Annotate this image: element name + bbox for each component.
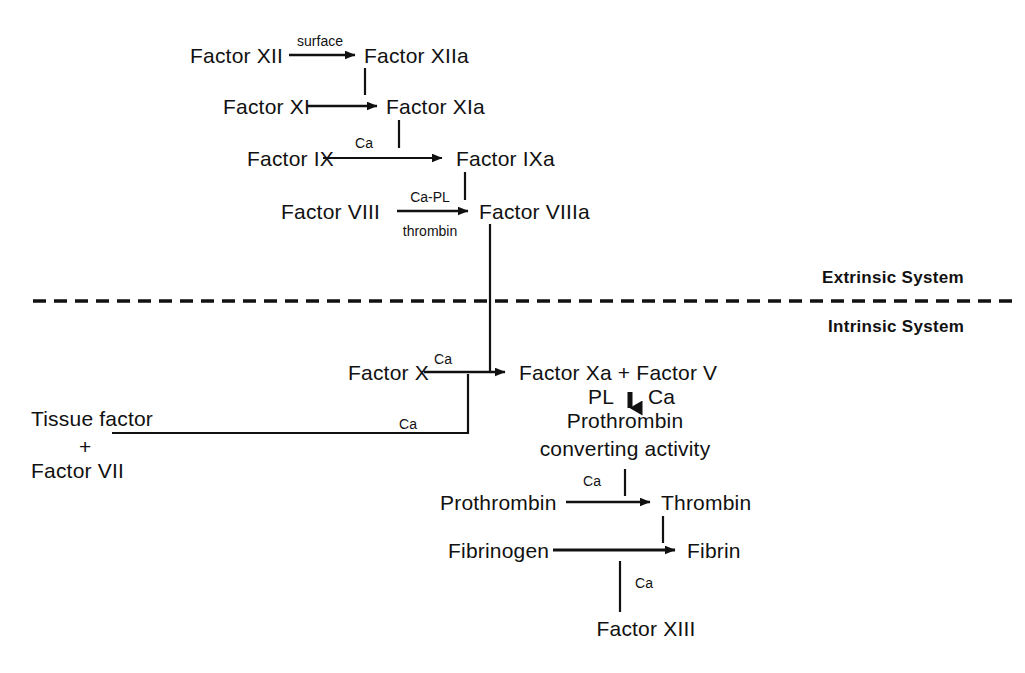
node-fibrin: Fibrin: [687, 540, 741, 561]
cofactor-pl: PL: [588, 386, 614, 407]
cofactor-ca-complex: Ca: [648, 386, 675, 407]
node-factor-x: Factor X: [348, 362, 429, 383]
coagulation-cascade-diagram: Factor XII Factor XIIa Factor XI Factor …: [0, 0, 1025, 673]
label-intrinsic-system: Intrinsic System: [828, 318, 964, 335]
node-factor-xi: Factor XI: [223, 96, 310, 117]
node-factor-viiia: Factor VIIIa: [479, 201, 590, 222]
node-prothrombin: Prothrombin: [440, 492, 557, 513]
node-tissue-factor: Tissue factor: [31, 408, 153, 429]
node-prothrombin-converting-line1: Prothrombin: [567, 410, 684, 431]
cofactor-ca-ix: Ca: [355, 136, 373, 150]
node-factor-xa-plus-factor-v: Factor Xa + Factor V: [519, 362, 717, 383]
cofactor-surface: surface: [297, 34, 343, 48]
label-extrinsic-system: Extrinsic System: [822, 269, 964, 286]
node-tissue-factor-plus: +: [79, 436, 91, 457]
diagram-connectors: [0, 0, 1025, 673]
node-factor-xiii: Factor XIII: [596, 618, 695, 639]
node-factor-xii: Factor XII: [190, 45, 283, 66]
node-factor-xiia: Factor XIIa: [364, 45, 469, 66]
cofactor-ca-pl: Ca-PL: [410, 190, 450, 204]
node-prothrombin-converting-line2: converting activity: [540, 438, 711, 459]
cofactor-ca-x: Ca: [434, 352, 452, 366]
cofactor-ca-fibrin: Ca: [635, 576, 653, 590]
node-thrombin: Thrombin: [661, 492, 751, 513]
node-fibrinogen: Fibrinogen: [448, 540, 549, 561]
node-factor-ix: Factor IX: [247, 148, 334, 169]
node-factor-vii: Factor VII: [31, 460, 124, 481]
node-factor-ixa: Factor IXa: [456, 148, 555, 169]
node-factor-xia: Factor XIa: [386, 96, 485, 117]
node-factor-viii: Factor VIII: [281, 201, 380, 222]
cofactor-ca-prothrombin: Ca: [583, 474, 601, 488]
cofactor-ca-tissue: Ca: [399, 417, 417, 431]
cofactor-thrombin: thrombin: [403, 224, 457, 238]
